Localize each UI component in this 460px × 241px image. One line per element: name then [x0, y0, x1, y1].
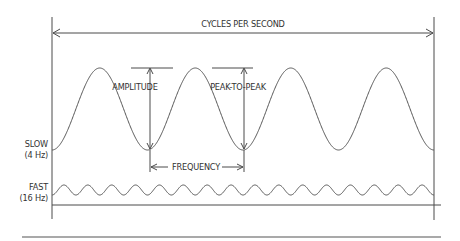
slow-wave: [52, 68, 434, 150]
fast-wave: [52, 185, 434, 195]
frequency-label: FREQUENCY: [172, 162, 221, 172]
amplitude-label: AMPLITUDE: [112, 82, 157, 92]
cycles-per-second-label: CYCLES PER SECOND: [201, 19, 284, 29]
slow-hz-label: (4 Hz): [25, 150, 48, 160]
fast-label: FAST: [29, 182, 49, 192]
peak-to-peak-label: PEAK-TO-PEAK: [210, 82, 267, 92]
slow-label: SLOW: [25, 139, 48, 149]
waveform-diagram: CYCLES PER SECOND AMPLITUDE PEAK-TO-PEAK…: [0, 0, 460, 241]
fast-hz-label: (16 Hz): [20, 193, 48, 203]
cycles-per-second-arrow: [53, 29, 433, 37]
peak-to-peak-arrow: [212, 68, 253, 149]
amplitude-arrow: [131, 68, 173, 149]
